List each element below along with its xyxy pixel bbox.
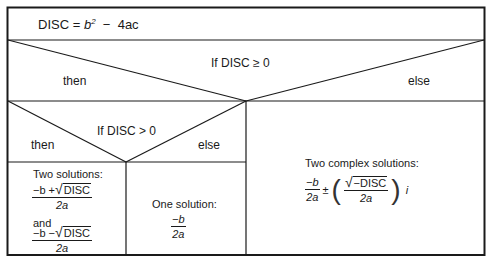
four-ac: 4ac — [118, 17, 139, 32]
disc-variable: DISC — [38, 17, 69, 32]
neg-b-plus: −b + — [33, 184, 55, 196]
two-solutions-title: Two solutions: — [33, 168, 103, 180]
one-solution-title: One solution: — [152, 198, 217, 210]
left-paren: ( — [332, 176, 341, 204]
denominator: 2a — [56, 198, 68, 211]
decision1-condition: If DISC ≥ 0 — [211, 57, 270, 69]
decision2-then-label: then — [31, 139, 54, 151]
exponent: 2 — [91, 17, 95, 26]
real-denominator: 2a — [306, 190, 318, 203]
complex-solutions-title: Two complex solutions: — [305, 157, 419, 169]
decision2-else-label: else — [198, 139, 220, 151]
disc-assignment: DISC = b2 − 4ac — [38, 18, 139, 31]
radicand: DISC — [63, 183, 91, 196]
denominator: 2a — [172, 227, 184, 240]
numerator: −b — [171, 213, 186, 227]
plus-minus-sign: ± — [323, 184, 329, 196]
complex-formula: −b2a ± ( √−DISC2a ) i — [305, 175, 408, 204]
complex-radicand: −DISC — [353, 176, 388, 189]
one-solution-formula: −b 2a — [171, 213, 186, 240]
right-paren: ) — [391, 176, 400, 204]
imag-denominator: 2a — [360, 191, 372, 204]
imaginary-unit: i — [406, 184, 408, 196]
neg-b-minus: −b − — [33, 227, 55, 239]
real-numerator: −b — [305, 176, 320, 190]
minus-sign: − — [103, 17, 111, 32]
complex-solutions-cell: Two complex solutions: −b2a ± ( √−DISC2a… — [247, 102, 483, 254]
decision1-then-label: then — [63, 75, 86, 87]
plus-root-formula: −b +√DISC 2a — [32, 182, 92, 211]
minus-root-formula: −b −√DISC 2a — [32, 225, 92, 254]
radicand: DISC — [63, 226, 91, 239]
one-solution-cell: One solution: −b 2a — [127, 163, 245, 254]
two-solutions-cell: Two solutions: −b +√DISC 2a and −b −√DIS… — [9, 163, 125, 254]
decision1-else-label: else — [408, 75, 430, 87]
equals-sign: = — [73, 17, 81, 32]
denominator: 2a — [56, 241, 68, 254]
decision2-condition: If DISC > 0 — [97, 125, 156, 137]
